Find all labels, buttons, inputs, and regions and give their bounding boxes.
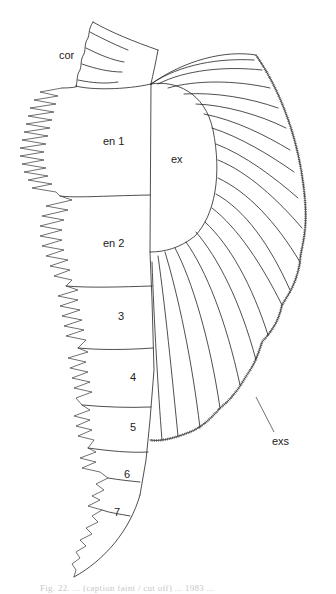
label-exopod: ex [171, 154, 183, 165]
coxa [76, 22, 158, 89]
label-endopod-1: en 1 [103, 136, 124, 147]
endopod [20, 84, 154, 577]
label-endopod-2: en 2 [103, 238, 124, 249]
exopod-fan [150, 54, 306, 441]
label-segment-4: 4 [130, 372, 136, 383]
label-segment-3: 3 [118, 311, 124, 322]
appendage-drawing [0, 0, 336, 594]
label-segment-5: 5 [130, 422, 136, 433]
figure-caption: Fig. 22. ... (caption faint / cut off) .… [40, 583, 214, 593]
exopod-lobe [150, 83, 217, 252]
label-coxa: cor [59, 50, 74, 61]
label-segment-7: 7 [114, 507, 120, 518]
label-exopod-setae: exs [272, 436, 289, 447]
label-segment-6: 6 [124, 469, 130, 480]
